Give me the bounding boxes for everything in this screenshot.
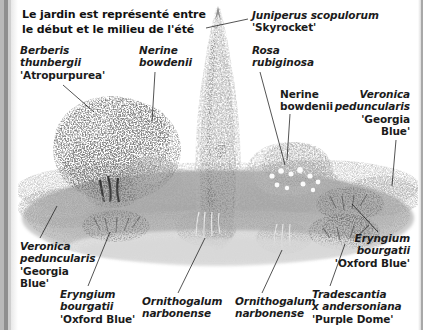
label-species-line2: x andersoniana: [312, 300, 402, 312]
label-tradescantia-purple-dome: Tradescantia x andersoniana 'Purple Dome…: [312, 288, 402, 325]
label-ornithogalum-narbonense-left: Ornithogalum narbonense: [142, 295, 222, 320]
label-cultivar: 'Atropurpurea': [20, 69, 105, 81]
label-species-line1: Rosa: [252, 44, 314, 56]
label-ornithogalum-narbonense-right: Ornithogalum narbonense: [235, 295, 315, 320]
label-species-line1: Eryngium: [60, 288, 135, 300]
label-nerine-bowdenii-right: Nerine bowdenii: [280, 88, 333, 113]
label-species-line2: bourgatii: [335, 244, 410, 256]
label-species-line1: Eryngium: [335, 232, 410, 244]
label-cultivar: 'Skyrocket': [252, 21, 379, 33]
label-cultivar: 'Oxford Blue': [60, 313, 135, 325]
label-veronica-peduncularis-right: Veronica peduncularis 'Georgia Blue': [335, 88, 410, 138]
label-species-line1: Nerine: [139, 44, 192, 56]
label-species-line2: narbonense: [142, 307, 222, 319]
label-cultivar: 'Purple Dome': [312, 313, 402, 325]
label-species-line2: bourgatii: [60, 300, 135, 312]
label-species-line1: Ornithogalum: [235, 295, 315, 307]
label-rosa-rubiginosa: Rosa rubiginosa: [252, 44, 314, 69]
garden-illustration-page: Le jardin est représenté entre le début …: [0, 0, 423, 330]
label-species-line1: Berberis: [20, 44, 105, 56]
label-species-line1: Veronica: [20, 240, 95, 252]
plant-nerine-bowdenii-left: [122, 156, 182, 200]
label-species-line1: Veronica: [335, 88, 410, 100]
label-species-line2: thunbergii: [20, 56, 105, 68]
label-species-line2: rubiginosa: [252, 56, 314, 68]
label-species-line2: narbonense: [235, 307, 315, 319]
page-title-line2: le début et le milieu de l'été: [22, 23, 206, 38]
label-veronica-peduncularis-left: Veronica peduncularis 'Georgia Blue': [20, 240, 95, 290]
label-species: Juniperus scopulorum: [252, 9, 379, 21]
label-cultivar-line2: Blue': [335, 125, 410, 137]
label-eryngium-bourgatii-right: Eryngium bourgatii 'Oxford Blue': [335, 232, 410, 269]
label-cultivar-line1: 'Georgia: [20, 265, 95, 277]
label-eryngium-bourgatii-left: Eryngium bourgatii 'Oxford Blue': [60, 288, 135, 325]
label-berberis-thunbergii: Berberis thunbergii 'Atropurpurea': [20, 44, 105, 81]
label-species-line1: Nerine: [280, 88, 333, 100]
label-cultivar-line1: 'Georgia: [335, 113, 410, 125]
label-species-line2: peduncularis: [20, 252, 95, 264]
page-edge-right-fade: [418, 0, 421, 330]
label-juniperus-scopulorum: Juniperus scopulorum 'Skyrocket': [252, 9, 379, 34]
label-species-line2: peduncularis: [335, 100, 410, 112]
label-species-line1: Tradescantia: [312, 288, 402, 300]
page-gutter-fade: [11, 0, 18, 330]
label-nerine-bowdenii-left: Nerine bowdenii: [139, 44, 192, 69]
label-species-line2: bowdenii: [280, 100, 333, 112]
page-title-line1: Le jardin est représenté entre: [22, 8, 206, 23]
label-species-line1: Ornithogalum: [142, 295, 222, 307]
label-cultivar: 'Oxford Blue': [335, 257, 410, 269]
page-title: Le jardin est représenté entre le début …: [22, 8, 206, 37]
label-species-line2: bowdenii: [139, 56, 192, 68]
